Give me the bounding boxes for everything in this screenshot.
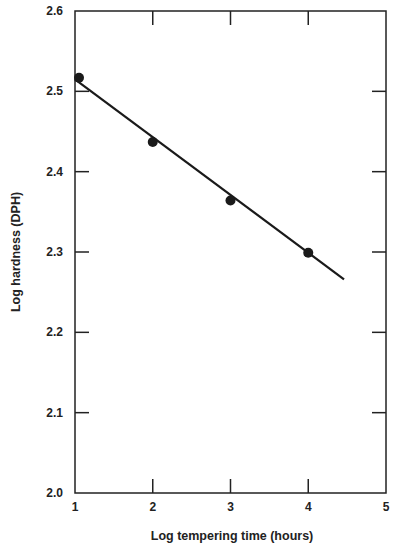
- y-tick-label: 2.2: [46, 325, 63, 339]
- x-tick-label: 3: [227, 500, 234, 514]
- y-tick-label: 2.4: [46, 165, 63, 179]
- y-tick-label: 2.5: [46, 84, 63, 98]
- x-tick-label: 4: [305, 500, 312, 514]
- y-tick-label: 2.1: [46, 406, 63, 420]
- data-point-marker: [303, 248, 313, 258]
- plot-frame: [75, 11, 386, 493]
- x-tick-label: 5: [383, 500, 390, 514]
- chart-canvas: 12345 2.02.12.22.32.42.52.6 Log temperin…: [0, 0, 394, 558]
- y-tick-labels: 2.02.12.22.32.42.52.6: [46, 4, 63, 500]
- fit-line-segment: [75, 79, 344, 279]
- y-tick-label: 2.3: [46, 245, 63, 259]
- x-tick-labels: 12345: [72, 500, 390, 514]
- y-tick-label: 2.6: [46, 4, 63, 18]
- data-point-marker: [74, 73, 84, 83]
- x-tick-label: 2: [149, 500, 156, 514]
- fit-line: [75, 79, 344, 279]
- x-tick-label: 1: [72, 500, 79, 514]
- x-axis-label: Log tempering time (hours): [151, 529, 314, 543]
- axis-ticks: [75, 11, 386, 493]
- y-tick-label: 2.0: [46, 486, 63, 500]
- y-axis-label: Log hardness (DPH): [9, 192, 23, 312]
- data-point-marker: [226, 196, 236, 206]
- data-point-marker: [148, 137, 158, 147]
